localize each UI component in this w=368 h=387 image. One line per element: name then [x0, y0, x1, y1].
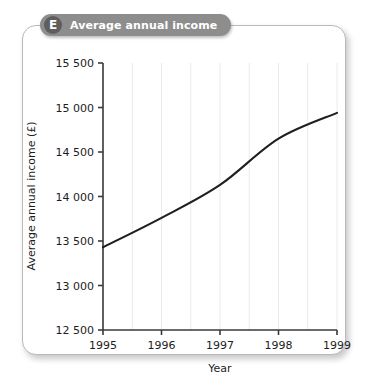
y-axis-title: Average annual income (£)	[25, 122, 38, 271]
y-tick-label: 13 500	[56, 235, 95, 248]
x-axis-tick-labels: 19951996199719981999	[89, 339, 351, 352]
chart-figure: E Average annual income 12 50013 00013 5…	[0, 0, 368, 387]
line-chart-plot: 12 50013 00013 50014 00014 50015 00015 5…	[0, 0, 368, 387]
x-tick-label: 1995	[89, 339, 117, 352]
x-tick-label: 1997	[206, 339, 234, 352]
y-tick-label: 14 000	[56, 191, 95, 204]
x-tick-label: 1996	[148, 339, 176, 352]
x-tick-label: 1999	[323, 339, 351, 352]
gridlines	[103, 63, 337, 330]
y-axis-tick-labels: 12 50013 00013 50014 00014 50015 00015 5…	[56, 57, 95, 337]
x-axis-title: Year	[207, 362, 232, 375]
x-tick-label: 1998	[265, 339, 293, 352]
y-tick-label: 15 500	[56, 57, 95, 70]
y-tick-label: 13 000	[56, 280, 95, 293]
y-tick-label: 12 500	[56, 324, 95, 337]
y-tick-label: 15 000	[56, 102, 95, 115]
y-tick-label: 14 500	[56, 146, 95, 159]
